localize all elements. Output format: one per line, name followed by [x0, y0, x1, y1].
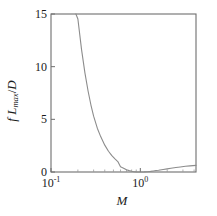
x-tick-exponent: -1: [54, 175, 61, 184]
x-tick-mantissa: 10: [42, 176, 54, 190]
axes-frame: [51, 14, 196, 172]
x-tick-exponent: 0: [144, 175, 148, 184]
ylabel-L: L: [4, 108, 19, 115]
ylabel-f: f: [4, 118, 19, 122]
y-axis-label-wrapper: f Lmax/D: [3, 93, 19, 109]
ylabel-D: D: [4, 80, 19, 89]
y-axis-label: f Lmax/D: [5, 80, 18, 121]
ylabel-max-subscript: max: [10, 93, 20, 107]
x-axis-label: M: [117, 194, 128, 207]
fanno-flow-chart: 051015 10-1100 M f Lmax/D: [0, 0, 217, 216]
x-tick-mantissa: 10: [132, 176, 144, 190]
y-tick-label: 15: [35, 8, 47, 20]
plot-canvas: [0, 0, 217, 216]
x-tick-label: 100: [132, 177, 148, 189]
plot-frame: [51, 14, 196, 172]
x-tick-label: 10-1: [42, 177, 61, 189]
y-tick-label: 10: [35, 61, 47, 73]
y-tick-label: 5: [41, 113, 47, 125]
